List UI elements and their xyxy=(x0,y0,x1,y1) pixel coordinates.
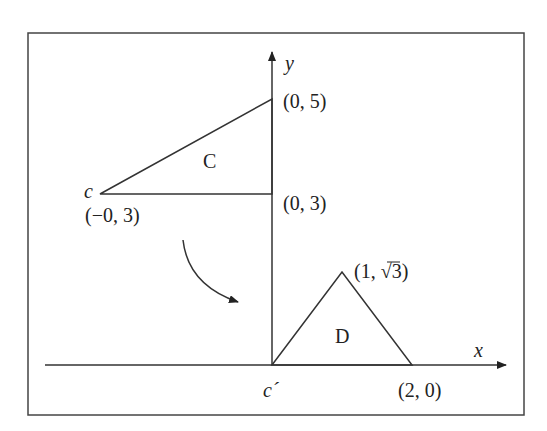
triangle-c-label: C xyxy=(203,150,216,172)
y-axis-label: y xyxy=(283,52,294,75)
point-0-3-label: (0, 3) xyxy=(283,192,326,215)
point-2-0-label: (2, 0) xyxy=(398,379,441,402)
point-c-coord-label: (−0, 3) xyxy=(85,204,140,227)
triangle-c xyxy=(100,99,272,194)
vertex-c-prime-label: c´ xyxy=(263,379,279,401)
point-1-sqrt3-label: (1, √3) xyxy=(354,260,408,283)
point-0-5-label: (0, 5) xyxy=(283,90,326,113)
diagram-canvas: y x (0, 5) (0, 3) c (−0, 3) C (1, √3) D … xyxy=(0,0,547,431)
x-axis-label: x xyxy=(473,339,483,361)
vertex-c-label: c xyxy=(84,180,93,202)
triangle-d-label: D xyxy=(335,325,349,347)
rotation-arrow-icon xyxy=(183,240,238,302)
triangle-d xyxy=(272,272,412,365)
